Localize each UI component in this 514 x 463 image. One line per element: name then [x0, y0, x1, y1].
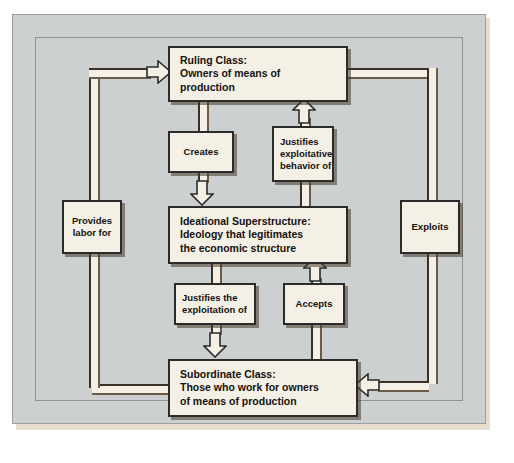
edge-label-creates: Creates	[168, 131, 234, 173]
node-ideational-line-3: the economic structure	[180, 242, 311, 255]
diagram-page: Ruling Class: Owners of means of product…	[0, 0, 514, 463]
node-subordinate-class: Subordinate Class: Those who work for ow…	[168, 359, 358, 417]
edge-label-provides-line-2: labor for	[72, 227, 112, 239]
edge-line-creates-upper	[198, 100, 209, 133]
edge-label-accepts: Accepts	[283, 283, 345, 325]
edge-label-justexp-line-3: behavior of	[280, 160, 332, 172]
edge-label-justifies-the-exploitation-of: Justifies the exploitation of	[174, 283, 256, 325]
node-subordinate-line-2: Those who work for owners	[180, 381, 319, 394]
edge-label-creates-line-1: Creates	[184, 146, 219, 158]
edge-label-exploits: Exploits	[400, 200, 460, 254]
edge-line-left-bottom	[92, 384, 172, 395]
edge-label-exploits-line-1: Exploits	[412, 221, 449, 233]
edge-line-right-bottom	[378, 381, 429, 392]
node-ideational-superstructure: Ideational Superstructure: Ideology that…	[168, 206, 348, 264]
node-ruling-class-line-2: Owners of means of	[180, 67, 280, 80]
edge-line-accepts-lower	[311, 323, 322, 359]
node-ideational-line-2: Ideology that legitimates	[180, 228, 311, 241]
edge-label-provides-labor-for: Provides labor for	[62, 200, 122, 254]
edge-label-justexp-line-1: Justifies	[280, 136, 332, 148]
node-ruling-class-line-3: production	[180, 81, 280, 94]
node-subordinate-line-3: of means of production	[180, 395, 319, 408]
node-ruling-class-line-1: Ruling Class:	[180, 54, 280, 67]
edge-line-justexp-lower	[300, 182, 311, 208]
edge-label-accepts-line-1: Accepts	[296, 298, 333, 310]
node-subordinate-line-1: Subordinate Class:	[180, 368, 319, 381]
edge-label-justexploitation-line-2: exploitation of	[182, 304, 247, 316]
edge-label-justexp-line-2: exploitative	[280, 148, 332, 160]
edge-line-left-top	[89, 68, 151, 79]
edge-label-justifies-exploitative: Justifies exploitative behavior of	[272, 126, 334, 182]
edge-label-justexploitation-line-1: Justifies the	[182, 292, 247, 304]
arrowhead-justifies-exploitation	[203, 332, 227, 358]
node-ruling-class: Ruling Class: Owners of means of product…	[168, 46, 348, 102]
edge-line-right-top	[346, 68, 430, 79]
edge-line-justexploitation-upper	[211, 262, 222, 285]
node-ideational-line-1: Ideational Superstructure:	[180, 215, 311, 228]
edge-label-provides-line-1: Provides	[72, 215, 112, 227]
arrowhead-creates	[190, 180, 214, 206]
